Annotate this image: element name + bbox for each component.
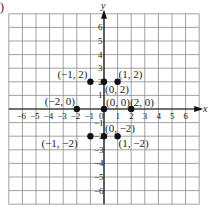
point-label: (1, −2) xyxy=(119,137,149,150)
x-tick-label: −2 xyxy=(71,111,81,121)
point-label: (2, 0) xyxy=(130,96,154,109)
y-tick-label: −4 xyxy=(94,158,104,168)
x-tick-label: 6 xyxy=(184,111,189,121)
x-tick-label: −3 xyxy=(57,111,67,121)
x-tick-label: 4 xyxy=(156,111,161,121)
x-tick-label: −5 xyxy=(30,111,40,121)
y-tick-label: 6 xyxy=(98,22,103,32)
x-tick-label: −6 xyxy=(16,111,26,121)
point-label: (−1, −2) xyxy=(41,137,78,150)
point-label: (−1, 2) xyxy=(57,68,87,81)
point-label: (0, 0) xyxy=(106,96,130,109)
point-label: (0, −2) xyxy=(105,122,135,135)
y-tick-label: −6 xyxy=(94,186,104,196)
y-tick-label: −5 xyxy=(94,172,104,182)
y-tick-label: 1 xyxy=(98,90,103,100)
part-marker: ) xyxy=(0,0,4,14)
x-axis-label: x xyxy=(202,103,208,114)
y-tick-label: 5 xyxy=(98,36,103,46)
x-tick-label: 3 xyxy=(143,111,148,121)
coordinate-plane: ) −6−5−4−3−2−10123456−6−5−4−3−2−1123456 … xyxy=(0,0,210,211)
y-tick-label: 4 xyxy=(98,50,103,60)
y-axis-label: y xyxy=(100,0,106,11)
y-tick-label: −1 xyxy=(94,118,104,128)
point-label: (−2, 0) xyxy=(45,95,75,108)
data-point xyxy=(87,79,93,85)
x-tick-label: 5 xyxy=(170,111,175,121)
x-axis-arrow-icon xyxy=(194,106,203,112)
data-point xyxy=(87,133,93,139)
point-label: (1, 2) xyxy=(119,68,143,81)
y-axis-arrow-icon xyxy=(101,10,107,19)
x-tick-label: 2 xyxy=(129,111,134,121)
y-tick-label: −3 xyxy=(94,145,104,155)
y-tick-label: 3 xyxy=(98,63,103,73)
x-tick-label: −4 xyxy=(44,111,54,121)
x-tick-label: −1 xyxy=(84,111,94,121)
x-tick-label: 1 xyxy=(116,111,121,121)
